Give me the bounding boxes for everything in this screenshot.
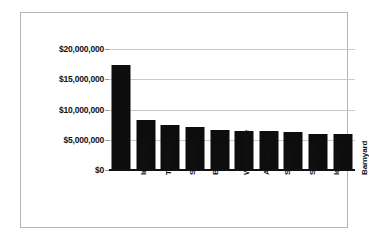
y-axis-tick-label: $0 — [95, 165, 104, 175]
x-tick-slot: Barnyard — [330, 49, 355, 170]
x-tick-slot: World Trade — [207, 49, 232, 170]
x-tick-slot: Invincible — [109, 49, 134, 170]
x-tick-slot: Accepted — [232, 49, 257, 170]
x-tick-slot: Beerfest — [183, 49, 208, 170]
plot-area: $20,000,000$15,000,000$10,000,000$5,000,… — [109, 49, 355, 170]
y-axis-tick-label: $5,000,000 — [63, 135, 104, 145]
y-axis-tick-label: $20,000,000 — [59, 44, 104, 54]
y-axis-tick-label: $10,000,000 — [59, 105, 104, 115]
x-tick-slot: Step Up — [281, 49, 306, 170]
x-tick-slot: Talladega — [134, 49, 159, 170]
x-tick-slot: Sunshine — [158, 49, 183, 170]
x-tick-slot: Idlewild — [306, 49, 331, 170]
x-axis-tick-label: Barnyard — [360, 141, 369, 175]
x-tick-slot: Snakes — [257, 49, 282, 170]
chart-frame: $20,000,000$15,000,000$10,000,000$5,000,… — [20, 12, 348, 228]
y-axis-tick-label: $15,000,000 — [59, 74, 104, 84]
